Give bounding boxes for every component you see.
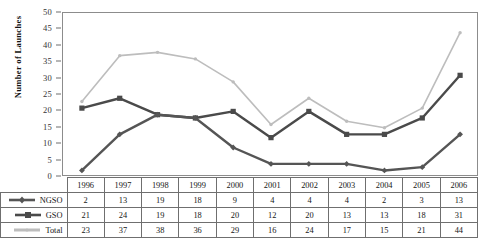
- table-year-header: 2002: [291, 178, 328, 193]
- table-year-header: 1996: [67, 178, 104, 193]
- legend-item-gso: GSO: [1, 208, 68, 223]
- table-cell: 23: [67, 223, 104, 238]
- y-tick-mark: [56, 44, 61, 45]
- table-cell: 3: [403, 193, 440, 208]
- table-row: Total2337383629162417152144: [1, 223, 478, 238]
- y-tick-mark: [56, 94, 61, 95]
- data-point: [269, 123, 272, 126]
- table-cell: 4: [328, 193, 365, 208]
- table-cell: 13: [440, 193, 477, 208]
- series-ngso: [79, 112, 463, 174]
- table-cell: 13: [104, 193, 141, 208]
- table-cell: 4: [291, 193, 328, 208]
- series-total: [80, 31, 462, 130]
- data-point: [421, 106, 424, 109]
- table-cell: 37: [104, 223, 141, 238]
- data-point: [457, 73, 462, 78]
- data-point: [194, 57, 197, 60]
- y-tick-mark: [56, 143, 61, 144]
- legend-ngso-marker-icon: [7, 193, 37, 207]
- table-row: NGSO213191894442313: [1, 193, 478, 208]
- data-table: 1996199719981999200020012002200320042005…: [0, 177, 478, 238]
- data-point: [306, 109, 311, 114]
- table-cell: 13: [366, 208, 403, 223]
- data-point: [156, 51, 159, 54]
- data-point: [306, 161, 312, 167]
- table-year-header: 2001: [254, 178, 291, 193]
- data-point: [307, 97, 310, 100]
- legend-label: GSO: [46, 211, 63, 220]
- table-corner-cell: [1, 178, 68, 193]
- series-gso: [79, 73, 462, 141]
- table-cell: 21: [67, 208, 104, 223]
- y-tick-label: 5: [48, 155, 52, 164]
- y-tick-label: 20: [43, 106, 52, 115]
- legend-item-total: Total: [1, 223, 68, 238]
- series-line: [82, 75, 460, 137]
- legend-label: Total: [45, 226, 62, 235]
- legend-total-marker-icon: [12, 223, 42, 237]
- table-year-header: 1999: [179, 178, 216, 193]
- table-year-header: 2000: [216, 178, 253, 193]
- y-tick-mark: [56, 159, 61, 160]
- table-cell: 24: [104, 208, 141, 223]
- table-cell: 24: [291, 223, 328, 238]
- data-point: [117, 96, 122, 101]
- y-axis: Number of Launches 05101520253035404550: [0, 0, 62, 182]
- data-point: [344, 132, 349, 137]
- table-year-header: 2005: [403, 178, 440, 193]
- data-point: [383, 126, 386, 129]
- y-tick-label: 30: [43, 73, 52, 82]
- data-point: [382, 168, 388, 174]
- table-cell: 21: [403, 223, 440, 238]
- data-point: [345, 120, 348, 123]
- y-tick-mark: [56, 28, 61, 29]
- table-year-header: 2006: [440, 178, 477, 193]
- series-line: [82, 33, 460, 128]
- data-point: [79, 106, 84, 111]
- table-year-header: 1998: [142, 178, 179, 193]
- table-cell: 12: [254, 208, 291, 223]
- table-cell: 9: [216, 193, 253, 208]
- table-cell: 38: [142, 223, 179, 238]
- table-cell: 16: [254, 223, 291, 238]
- table-cell: 44: [440, 223, 477, 238]
- y-tick-mark: [56, 61, 61, 62]
- chart-figure: Number of Launches 05101520253035404550 …: [0, 0, 492, 252]
- y-tick-mark: [56, 126, 61, 127]
- table-cell: 4: [254, 193, 291, 208]
- data-point: [420, 115, 425, 120]
- data-point: [231, 80, 234, 83]
- legend-label: NGSO: [40, 196, 63, 205]
- plot-svg: [63, 13, 479, 177]
- y-tick-label: 10: [43, 139, 52, 148]
- table-cell: 29: [216, 223, 253, 238]
- table-year-header: 2004: [366, 178, 403, 193]
- y-tick-label: 15: [43, 123, 52, 132]
- table-cell: 18: [179, 208, 216, 223]
- table-cell: 18: [179, 193, 216, 208]
- y-tick-mark: [56, 77, 61, 78]
- plot-area: [62, 12, 478, 176]
- y-axis-title: Number of Launches: [13, 0, 23, 117]
- data-point: [344, 161, 350, 167]
- data-point: [458, 31, 461, 34]
- table-year-header: 2003: [328, 178, 365, 193]
- y-tick-mark: [56, 12, 61, 13]
- data-point: [382, 132, 387, 137]
- data-point: [118, 54, 121, 57]
- table-cell: 13: [328, 208, 365, 223]
- table-header-row: 1996199719981999200020012002200320042005…: [1, 178, 478, 193]
- y-tick-label: 50: [43, 8, 52, 17]
- table-row: GSO2124191820122013131831: [1, 208, 478, 223]
- data-point: [231, 109, 236, 114]
- table-cell: 18: [403, 208, 440, 223]
- y-tick-label: 25: [43, 90, 52, 99]
- table-cell: 20: [216, 208, 253, 223]
- table-cell: 15: [366, 223, 403, 238]
- table-cell: 19: [142, 208, 179, 223]
- y-tick-label: 35: [43, 57, 52, 66]
- legend-gso-marker-icon: [13, 208, 43, 222]
- table-cell: 20: [291, 208, 328, 223]
- y-tick-mark: [56, 110, 61, 111]
